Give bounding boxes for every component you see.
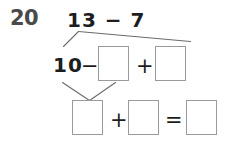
worksheet-problem: 20 13 − 7 10 − + + = — [0, 0, 237, 141]
row2-answer-box-1[interactable] — [98, 46, 129, 81]
top-expression: 13 − 7 — [67, 10, 145, 30]
row2-answer-box-2[interactable] — [155, 46, 186, 81]
connector-lower-right-leg — [90, 83, 116, 101]
row2-leading-number: 10 — [53, 55, 83, 75]
row3-answer-box-1[interactable] — [72, 100, 103, 135]
row3-equals-sign: = — [165, 110, 183, 131]
row2-plus-sign: + — [136, 56, 154, 77]
connector-top-right-leg — [79, 32, 191, 42]
row2-minus-sign: − — [81, 56, 99, 77]
problem-number: 20 — [10, 8, 38, 29]
row3-plus-sign: + — [110, 110, 128, 131]
row3-answer-box-2[interactable] — [128, 100, 159, 135]
connector-top-left-leg — [64, 32, 79, 47]
row3-answer-box-3[interactable] — [186, 100, 217, 135]
connector-lower-left-leg — [63, 83, 90, 101]
